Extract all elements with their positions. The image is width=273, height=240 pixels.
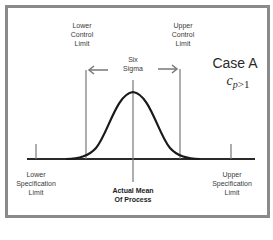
capability-index: cp>1 (213, 73, 263, 90)
upper-spec-limit-label: Upper Specification Limit (207, 170, 257, 197)
left-arrow-icon (89, 66, 108, 74)
six-sigma-label: Six Sigma (113, 55, 153, 73)
lower-control-limit-label: Lower Control Limit (62, 21, 102, 48)
capability-relation: >1 (238, 78, 250, 90)
actual-mean-label: Actual Mean Of Process (108, 186, 158, 204)
right-arrow-icon (158, 65, 177, 73)
lower-spec-limit-label: Lower Specification Limit (11, 170, 61, 197)
upper-control-limit-label: Upper Control Limit (163, 21, 203, 48)
case-title: Case A (209, 55, 261, 71)
